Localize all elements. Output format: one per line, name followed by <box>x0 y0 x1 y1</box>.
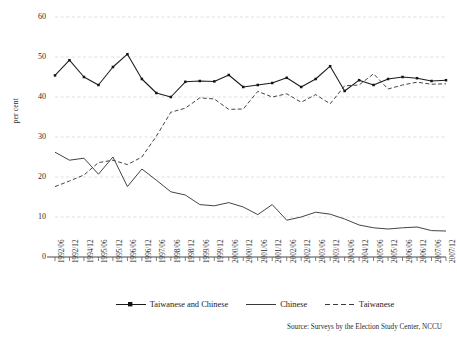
line-marker-glyph <box>116 300 146 309</box>
data-point-marker <box>126 53 129 56</box>
legend-label: Chinese <box>280 300 307 309</box>
x-axis-tick-label: 1996/12 <box>145 239 153 263</box>
data-point-marker <box>155 92 158 95</box>
legend-label: Taiwanese and Chinese <box>150 300 228 309</box>
data-point-marker <box>68 59 71 62</box>
x-axis-tick-label: 2002/12 <box>304 239 312 263</box>
data-point-marker <box>97 84 100 87</box>
data-point-marker <box>314 78 317 81</box>
x-axis-tick-label: 2004/06 <box>348 239 356 263</box>
legend-label: Taiwanese <box>359 300 394 309</box>
data-point-marker <box>271 82 274 85</box>
y-axis-tick-label: 60 <box>24 12 46 21</box>
data-point-marker <box>372 84 375 87</box>
y-axis-tick-label: 20 <box>24 172 46 181</box>
data-point-marker <box>358 79 361 82</box>
data-point-marker <box>416 77 419 80</box>
x-axis-tick-label: 1995/06 <box>101 239 109 263</box>
x-axis-tick-label: 1992/06 <box>58 239 66 263</box>
legend-item-taiwanese-and-chinese: Taiwanese and Chinese <box>116 300 228 309</box>
x-axis-tick-label: 2000/12 <box>246 239 254 263</box>
data-point-marker <box>184 81 187 84</box>
x-axis-tick-label: 1992/12 <box>72 239 80 263</box>
data-point-marker <box>170 96 173 99</box>
x-axis-tick-label: 2001/06 <box>261 239 269 263</box>
data-point-marker <box>112 66 115 69</box>
data-point-marker <box>329 65 332 68</box>
x-axis-tick-label: 2003/12 <box>333 239 341 263</box>
data-point-marker <box>300 86 303 89</box>
x-axis-tick-label: 2005/06 <box>377 239 385 263</box>
y-axis-tick-label: 30 <box>24 132 46 141</box>
x-axis-tick-label: 2007/06 <box>435 239 443 263</box>
x-axis-tick-label: 2000/06 <box>232 239 240 263</box>
data-point-marker <box>387 78 390 81</box>
data-point-marker <box>242 86 245 89</box>
series-line-taiwanese <box>55 74 446 187</box>
data-point-marker <box>54 74 57 77</box>
data-point-marker <box>285 77 288 80</box>
legend-item-taiwanese: Taiwanese <box>325 300 394 309</box>
series-line-taiwanese-and-chinese <box>55 54 446 97</box>
data-point-marker <box>430 80 433 83</box>
x-axis-tick-label: 2003/06 <box>319 239 327 263</box>
x-axis-tick-label: 1998/12 <box>188 239 196 263</box>
x-axis-tick-label: 2005/12 <box>391 239 399 263</box>
data-point-marker <box>343 90 346 93</box>
x-axis-tick-label: 1999/06 <box>203 239 211 263</box>
x-axis-tick-label: 1994/12 <box>87 239 95 263</box>
data-point-marker <box>199 80 202 83</box>
x-axis-tick-label: 1997/06 <box>159 239 167 263</box>
y-axis-tick-label: 50 <box>24 52 46 61</box>
source-note: Source: Surveys by the Election Study Ce… <box>287 323 442 331</box>
x-axis-tick-label: 1995/12 <box>116 239 124 263</box>
x-axis-tick-label: 2007/12 <box>449 239 457 263</box>
x-axis-tick-label: 2006/12 <box>420 239 428 263</box>
line-glyph <box>246 300 276 309</box>
x-axis-tick-label: 2006/06 <box>406 239 414 263</box>
chart-legend: Taiwanese and Chinese Chinese Taiwanese <box>100 296 410 312</box>
y-axis-tick-label: 10 <box>24 212 46 221</box>
x-axis-tick-label: 1998/06 <box>174 239 182 263</box>
data-point-marker <box>401 76 404 79</box>
series-line-chinese <box>55 152 446 231</box>
legend-item-chinese: Chinese <box>246 300 307 309</box>
data-point-marker <box>141 78 144 81</box>
x-axis-tick-label: 1996/06 <box>130 239 138 263</box>
x-axis-tick-label: 2001/12 <box>275 239 283 263</box>
data-point-marker <box>83 76 86 79</box>
data-point-marker <box>445 79 448 82</box>
x-axis-tick-label: 2002/06 <box>290 239 298 263</box>
y-axis-title: per cent <box>11 110 20 124</box>
data-point-marker <box>213 80 216 83</box>
y-axis-tick-label: 40 <box>24 92 46 101</box>
x-axis-tick-label: 1999/12 <box>217 239 225 263</box>
data-point-marker <box>256 84 259 87</box>
data-point-marker <box>228 74 231 77</box>
y-axis-tick-label: 0 <box>24 252 46 261</box>
dashed-line-glyph <box>325 300 355 309</box>
x-axis-tick-label: 2004/12 <box>362 239 370 263</box>
